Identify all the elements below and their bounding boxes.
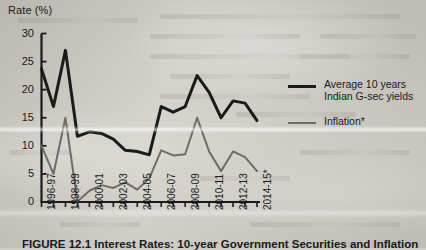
y-tick-label: 25 (12, 55, 34, 67)
y-tick-label: 5 (12, 167, 34, 179)
y-tick-label: 20 (12, 83, 34, 95)
thin-line-swatch-icon (288, 122, 316, 124)
scan-light-band-lower (0, 208, 426, 218)
legend-label-gsec-yields: Average 10 years Indian G-sec yields (324, 78, 413, 102)
x-tick-label: 2006-07 (166, 173, 177, 210)
x-tick-label: 2012-13 (238, 173, 249, 210)
x-tick-label: 2002-03 (118, 173, 129, 210)
legend-label-line1: Average 10 years (324, 78, 413, 90)
x-tick-label: 2010-11 (214, 174, 225, 210)
scan-light-band (0, 126, 426, 133)
legend-item-gsec-yields: Average 10 years Indian G-sec yields (288, 78, 413, 102)
x-tick-label: 1998-99 (70, 173, 81, 210)
series-line-gsec-yields (42, 50, 258, 154)
legend-label-line2: Indian G-sec yields (324, 90, 413, 102)
y-tick-label: 15 (12, 111, 34, 123)
y-tick-label: 10 (12, 139, 34, 151)
x-tick-label: 2014-15* (262, 169, 273, 210)
x-tick-label: 2004-05 (142, 173, 153, 210)
y-tick-label: 30 (12, 27, 34, 39)
y-tick-label: 0 (12, 195, 34, 207)
x-tick-label: 2008-09 (190, 173, 201, 210)
figure-caption: FIGURE 12.1 Interest Rates: 10-year Gove… (22, 238, 426, 250)
thick-line-swatch-icon (288, 85, 316, 88)
x-tick-label: 2000-01 (94, 173, 105, 210)
x-tick-label: 1996-97 (46, 173, 57, 210)
